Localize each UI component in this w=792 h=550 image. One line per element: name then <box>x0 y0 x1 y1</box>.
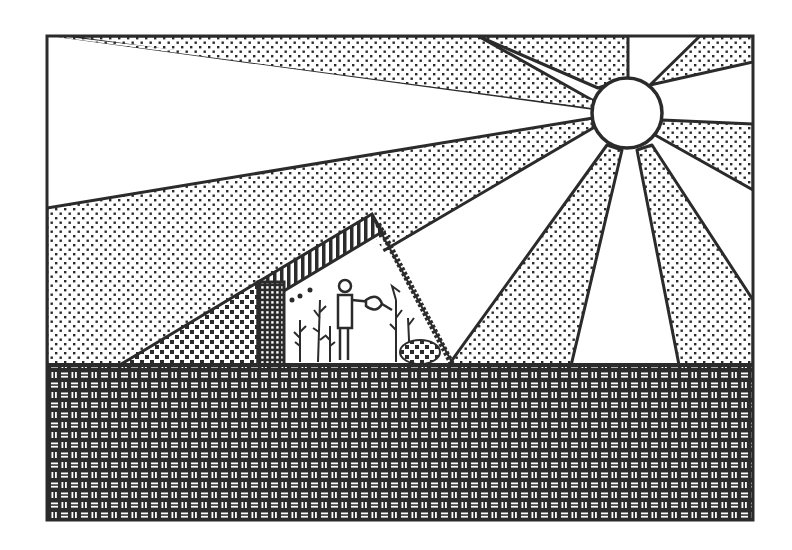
sun <box>592 78 662 148</box>
person-body <box>338 295 352 328</box>
shrub <box>400 340 440 364</box>
thermal-mass-wall <box>258 282 284 366</box>
person-head <box>339 280 351 292</box>
solar-greenhouse-illustration <box>0 0 792 550</box>
ground <box>47 364 753 520</box>
watering-can <box>366 297 382 310</box>
